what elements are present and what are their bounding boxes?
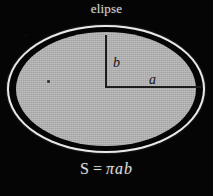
ellipse-center-point-icon [47,80,50,83]
formula-equals-sign: = [90,160,106,177]
semi-minor-axis-line [105,35,107,88]
ellipse-figure-plate: elipse b a S=πab [0,0,213,196]
semi-major-axis-label: a [149,73,156,87]
formula-left-side: S [80,160,90,177]
semi-minor-axis-label: b [113,56,120,70]
figure-title: elipse [0,1,213,16]
formula-right-side: πab [106,160,133,177]
area-formula: S=πab [0,160,213,178]
